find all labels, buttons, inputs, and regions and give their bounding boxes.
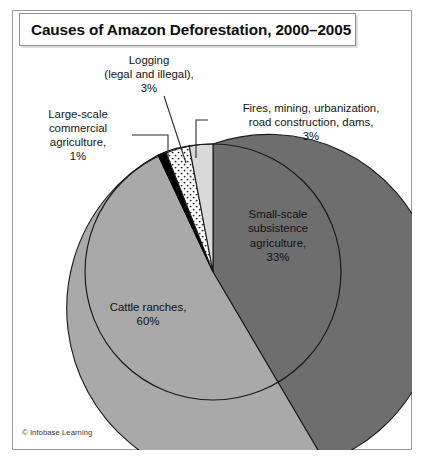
callout-label-large-scale: Large-scale commercial agriculture, 1% [14, 108, 142, 164]
pie-label-cattle-ranches: Cattle ranches, 60% [92, 300, 204, 329]
callout-label-logging: Logging (legal and illegal), 3% [76, 54, 222, 96]
chart-title-plate: Causes of Amazon Deforestation, 2000–200… [19, 13, 356, 46]
copyright-credit: © Infobase Learning [22, 428, 92, 437]
callout-label-fires: Fires, mining, urbanization, road constr… [208, 102, 414, 144]
pie-label-small-scale: Small-scale subsistence agriculture, 33% [224, 207, 332, 264]
page-title: Causes of Amazon Deforestation, 2000–200… [31, 21, 351, 39]
